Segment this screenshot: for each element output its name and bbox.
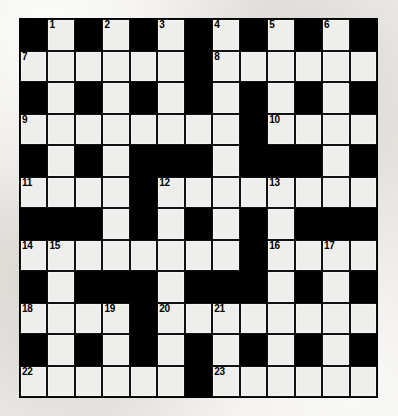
grid-cell-light[interactable] [322, 145, 349, 177]
grid-cell-light[interactable]: 1 [47, 19, 74, 51]
grid-cell-light[interactable] [185, 240, 212, 272]
grid-cell-light[interactable] [322, 303, 349, 335]
grid-cell-light[interactable]: 14 [20, 240, 47, 272]
grid-cell-light[interactable] [322, 82, 349, 114]
grid-cell-light[interactable]: 12 [157, 177, 184, 209]
grid-cell-light[interactable]: 5 [267, 19, 294, 51]
grid-cell-light[interactable] [185, 303, 212, 335]
grid-cell-light[interactable] [267, 334, 294, 366]
grid-cell-light[interactable] [102, 177, 129, 209]
grid-cell-light[interactable] [350, 240, 377, 272]
grid-cell-light[interactable] [350, 303, 377, 335]
grid-cell-light[interactable] [75, 240, 102, 272]
grid-cell-light[interactable] [212, 334, 239, 366]
grid-cell-light[interactable] [267, 366, 294, 398]
grid-cell-light[interactable] [102, 240, 129, 272]
grid-cell-light[interactable] [157, 366, 184, 398]
grid-cell-light[interactable] [267, 208, 294, 240]
grid-cell-light[interactable] [47, 177, 74, 209]
grid-cell-light[interactable] [212, 82, 239, 114]
grid-cell-light[interactable]: 20 [157, 303, 184, 335]
grid-cell-light[interactable] [102, 145, 129, 177]
grid-cell-light[interactable]: 7 [20, 51, 47, 83]
grid-cell-light[interactable] [295, 366, 322, 398]
grid-cell-light[interactable] [47, 303, 74, 335]
grid-cell-light[interactable] [322, 51, 349, 83]
grid-cell-light[interactable] [47, 114, 74, 146]
grid-cell-light[interactable] [75, 114, 102, 146]
grid-cell-light[interactable] [295, 51, 322, 83]
grid-cell-light[interactable]: 22 [20, 366, 47, 398]
grid-cell-light[interactable]: 8 [212, 51, 239, 83]
grid-cell-light[interactable] [47, 271, 74, 303]
grid-cell-light[interactable]: 2 [102, 19, 129, 51]
grid-cell-light[interactable] [240, 303, 267, 335]
grid-cell-light[interactable]: 10 [267, 114, 294, 146]
grid-cell-light[interactable] [295, 240, 322, 272]
grid-cell-light[interactable] [267, 51, 294, 83]
grid-cell-light[interactable] [130, 366, 157, 398]
grid-cell-light[interactable] [130, 240, 157, 272]
grid-cell-light[interactable]: 19 [102, 303, 129, 335]
grid-cell-light[interactable]: 16 [267, 240, 294, 272]
grid-cell-light[interactable]: 18 [20, 303, 47, 335]
grid-cell-light[interactable] [185, 114, 212, 146]
grid-cell-light[interactable] [102, 51, 129, 83]
grid-cell-light[interactable] [130, 114, 157, 146]
grid-cell-light[interactable] [240, 51, 267, 83]
grid-cell-light[interactable] [267, 303, 294, 335]
grid-cell-light[interactable] [75, 366, 102, 398]
grid-cell-light[interactable] [102, 366, 129, 398]
grid-cell-light[interactable] [157, 334, 184, 366]
crossword-grid[interactable]: 1234567891011121314151617181920212223 [19, 18, 378, 398]
grid-cell-light[interactable] [212, 114, 239, 146]
grid-cell-light[interactable] [47, 334, 74, 366]
grid-cell-light[interactable] [157, 51, 184, 83]
grid-cell-light[interactable] [185, 177, 212, 209]
grid-cell-light[interactable] [75, 303, 102, 335]
grid-cell-light[interactable]: 11 [20, 177, 47, 209]
grid-cell-light[interactable]: 23 [212, 366, 239, 398]
grid-cell-light[interactable] [267, 82, 294, 114]
grid-cell-light[interactable] [102, 334, 129, 366]
grid-cell-light[interactable] [212, 145, 239, 177]
grid-cell-light[interactable] [75, 177, 102, 209]
grid-cell-light[interactable] [322, 177, 349, 209]
grid-cell-light[interactable]: 13 [267, 177, 294, 209]
grid-cell-light[interactable] [47, 82, 74, 114]
grid-cell-light[interactable]: 21 [212, 303, 239, 335]
grid-cell-light[interactable]: 9 [20, 114, 47, 146]
grid-cell-light[interactable] [102, 82, 129, 114]
grid-cell-light[interactable] [212, 240, 239, 272]
grid-cell-light[interactable] [295, 177, 322, 209]
grid-cell-light[interactable] [322, 334, 349, 366]
grid-cell-light[interactable] [350, 114, 377, 146]
grid-cell-light[interactable] [47, 366, 74, 398]
grid-cell-light[interactable]: 4 [212, 19, 239, 51]
grid-cell-light[interactable] [350, 366, 377, 398]
grid-cell-light[interactable]: 6 [322, 19, 349, 51]
grid-cell-light[interactable]: 15 [47, 240, 74, 272]
grid-cell-light[interactable] [47, 145, 74, 177]
grid-cell-light[interactable] [157, 114, 184, 146]
grid-cell-light[interactable] [322, 271, 349, 303]
grid-cell-light[interactable]: 3 [157, 19, 184, 51]
grid-cell-light[interactable] [157, 208, 184, 240]
grid-cell-light[interactable] [212, 208, 239, 240]
grid-cell-light[interactable] [295, 114, 322, 146]
grid-cell-light[interactable] [212, 177, 239, 209]
grid-cell-light[interactable] [267, 271, 294, 303]
grid-cell-light[interactable] [240, 366, 267, 398]
grid-cell-light[interactable] [350, 177, 377, 209]
grid-cell-light[interactable] [47, 51, 74, 83]
grid-cell-light[interactable] [157, 82, 184, 114]
grid-cell-light[interactable]: 17 [322, 240, 349, 272]
grid-cell-light[interactable] [75, 51, 102, 83]
grid-cell-light[interactable] [157, 271, 184, 303]
grid-cell-light[interactable] [350, 51, 377, 83]
grid-cell-light[interactable] [102, 114, 129, 146]
grid-cell-light[interactable] [295, 303, 322, 335]
grid-cell-light[interactable] [322, 366, 349, 398]
grid-cell-light[interactable] [157, 240, 184, 272]
grid-cell-light[interactable] [130, 51, 157, 83]
